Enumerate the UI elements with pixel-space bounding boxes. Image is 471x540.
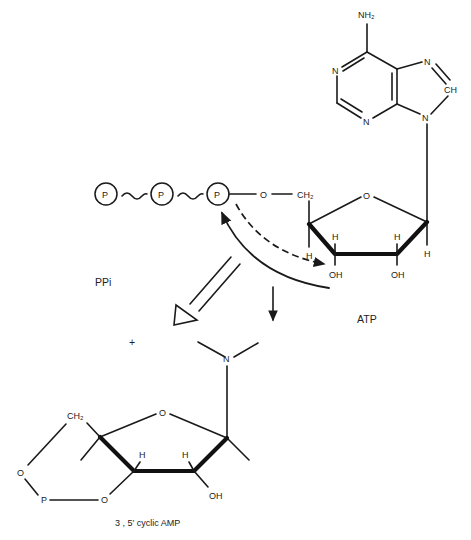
ppi-label: PPi [95,276,111,288]
camp-phosphorus-label: P [41,495,47,505]
phosphate-alpha-label: P [214,190,220,200]
camp-caption: 3 , 5′ cyclic AMP [115,518,180,528]
adenine-ring [337,24,450,222]
n7-label: N [424,57,431,67]
atp-label: ATP [357,313,377,325]
nh2-label: NH₂ [358,10,375,20]
phosphate-gamma-label: P [102,190,108,200]
camp-oh-label: OH [209,491,223,501]
n9-label: N [422,113,429,123]
ch2-label: CH₂ [297,190,314,200]
ribose-ring [309,197,427,265]
camp-n9-label: N [223,354,230,364]
camp-ester-oxygen-5-label: O [17,468,24,478]
h2-label: H [394,232,401,242]
camp-h2-label: H [182,450,189,460]
camp-ring-oxygen-label: O [159,408,166,418]
bridge-oxygen-label: O [260,190,267,200]
oh3-label: OH [329,270,343,280]
h1-label: H [424,249,431,259]
camp-ester-oxygen-3-label: O [101,495,108,505]
release-open-arrow [174,257,240,325]
n3-label: N [363,117,370,127]
n1-label: N [332,66,339,76]
oh2-label: OH [391,270,405,280]
diagram-canvas: NH₂ N N N CH N P P P O CH₂ O H H H H OH … [0,0,471,540]
h3-label: H [332,232,339,242]
plus-sign: + [129,336,135,348]
curved-arrow [222,213,329,288]
c8-label: CH [444,85,457,95]
camp-h3-label: H [139,450,146,460]
camp-structure [25,342,258,500]
phosphate-beta-label: P [158,190,164,200]
camp-ch2-label: CH₂ [67,411,84,421]
ribose-oxygen-label: O [363,191,370,201]
